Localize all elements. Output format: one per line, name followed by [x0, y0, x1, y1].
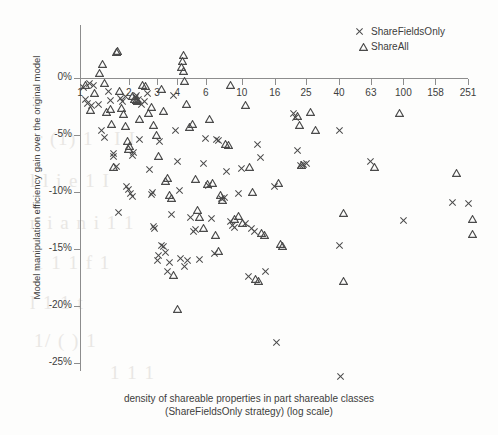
data-point-triangle	[191, 213, 199, 221]
data-point-triangle	[293, 161, 301, 169]
data-point-cross	[399, 216, 408, 225]
data-point-triangle	[77, 81, 85, 89]
data-point-triangle	[201, 115, 209, 123]
data-point-triangle	[250, 277, 258, 285]
legend-label: ShareFieldsOnly	[371, 26, 445, 37]
data-point-cross	[335, 126, 344, 135]
data-point-cross	[165, 258, 174, 267]
cross-glyph	[355, 27, 364, 36]
y-axis-title: Model manipulation efficiency gain over …	[31, 38, 42, 318]
data-point-triangle	[103, 120, 111, 128]
data-point-cross	[293, 146, 302, 155]
data-point-triangle	[129, 97, 137, 105]
data-point-triangle	[244, 188, 252, 196]
data-point-triangle	[464, 215, 472, 223]
data-point-cross	[167, 210, 176, 219]
data-point-cross	[234, 189, 243, 198]
data-point-cross	[148, 188, 157, 197]
data-point-triangle	[207, 231, 215, 239]
data-point-triangle	[289, 112, 297, 120]
data-point-triangle	[307, 126, 315, 134]
data-point-triangle	[175, 51, 183, 59]
data-point-cross	[195, 255, 204, 264]
data-point-triangle	[159, 174, 167, 182]
data-point-triangle	[178, 100, 186, 108]
data-point-cross	[201, 134, 210, 143]
data-point-cross	[145, 165, 154, 174]
data-point-cross	[128, 192, 137, 201]
data-point-triangle	[195, 224, 203, 232]
data-point-triangle	[121, 142, 129, 150]
data-point-triangle	[210, 247, 218, 255]
data-point-triangle	[148, 131, 156, 139]
data-point-triangle	[86, 89, 94, 97]
data-point-triangle	[96, 79, 104, 87]
data-point-triangle	[187, 175, 195, 183]
data-point-cross	[222, 167, 231, 176]
data-point-triangle	[241, 163, 249, 171]
data-point-triangle	[105, 163, 113, 171]
data-point-triangle	[222, 81, 230, 89]
data-point-triangle	[91, 69, 99, 77]
data-point-triangle	[464, 230, 472, 238]
data-point-cross	[100, 133, 109, 142]
legend-item-sharefieldsonly[interactable]: ShareFieldsOnly	[352, 24, 445, 39]
data-point-cross	[336, 372, 345, 381]
data-point-triangle	[131, 115, 139, 123]
data-point-cross	[169, 91, 178, 100]
data-point-cross	[464, 199, 473, 208]
data-point-triangle	[111, 87, 119, 95]
data-point-triangle	[165, 271, 173, 279]
data-point-triangle	[137, 82, 145, 90]
data-point-triangle	[335, 277, 343, 285]
data-point-triangle	[391, 109, 399, 117]
data-point-cross	[272, 338, 281, 347]
data-point-cross	[150, 224, 159, 233]
data-point-layer	[0, 0, 498, 435]
data-point-triangle	[291, 121, 299, 129]
data-point-triangle	[176, 77, 184, 85]
scatter-plot-figure: r (1) 1 · I Il l j e 1 In i a n i 1 11 1…	[0, 0, 498, 435]
data-point-cross	[161, 248, 170, 257]
data-point-cross	[448, 198, 457, 207]
data-point-cross	[171, 126, 180, 135]
data-point-triangle	[143, 103, 151, 111]
data-point-cross	[109, 152, 118, 161]
data-point-triangle	[448, 169, 456, 177]
x-axis-caption-line-1: density of shareable properties in part …	[0, 392, 498, 405]
data-point-triangle	[82, 106, 90, 114]
data-point-triangle	[163, 194, 171, 202]
data-point-triangle	[109, 47, 117, 55]
data-point-triangle	[102, 105, 110, 113]
triangle-marker	[352, 41, 366, 53]
data-point-triangle	[274, 242, 282, 250]
cross-marker	[352, 26, 366, 38]
data-point-cross	[253, 140, 262, 149]
data-point-triangle	[155, 107, 163, 115]
data-point-triangle	[366, 163, 374, 171]
chart-legend: ShareFieldsOnlyShareAll	[352, 24, 445, 54]
data-point-cross	[114, 208, 123, 217]
data-point-triangle	[237, 101, 245, 109]
data-point-triangle	[169, 305, 177, 313]
data-point-triangle	[204, 179, 212, 187]
data-point-triangle	[150, 152, 158, 160]
legend-label: ShareAll	[371, 41, 409, 52]
data-point-cross	[261, 267, 270, 276]
x-axis-caption-line-2: (ShareFieldsOnly strategy) (log scale)	[0, 405, 498, 418]
data-point-triangle	[214, 196, 222, 204]
data-point-cross	[135, 135, 144, 144]
x-axis-caption: density of shareable properties in part …	[0, 392, 498, 418]
data-point-cross	[335, 241, 344, 250]
data-point-cross	[143, 89, 152, 98]
data-point-cross	[183, 256, 192, 265]
data-point-triangle	[145, 121, 153, 129]
data-point-triangle	[270, 179, 278, 187]
data-point-triangle	[234, 219, 242, 227]
legend-item-shareall[interactable]: ShareAll	[352, 39, 445, 54]
data-point-cross	[173, 157, 182, 166]
data-point-cross	[207, 214, 216, 223]
data-point-triangle	[115, 110, 123, 118]
data-point-cross	[256, 153, 265, 162]
data-point-triangle	[153, 85, 161, 93]
